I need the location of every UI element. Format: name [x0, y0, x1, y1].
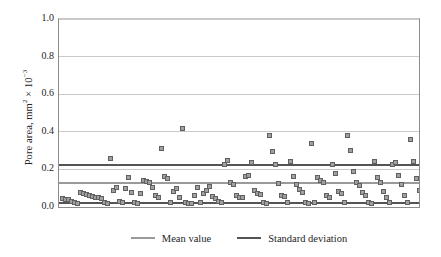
data-point — [240, 195, 245, 200]
data-point — [189, 201, 194, 206]
data-point — [378, 180, 383, 185]
legend-item-mean-value: Mean value — [131, 233, 211, 244]
data-point — [120, 200, 125, 205]
data-point — [270, 149, 275, 154]
data-point — [363, 193, 368, 198]
data-point — [225, 158, 230, 163]
data-point — [222, 162, 227, 167]
data-point — [399, 182, 404, 187]
data-point — [417, 188, 421, 193]
scatter-chart: Pore area, mm2 × 10−3 0.00.20.40.60.81.0… — [0, 0, 441, 257]
data-point — [327, 195, 332, 200]
gridline-y-0.4 — [59, 131, 419, 132]
gridline-y-0.6 — [59, 94, 419, 95]
data-point — [75, 201, 80, 206]
data-point — [333, 171, 338, 176]
chart-legend: Mean value Standard deviation — [58, 228, 420, 248]
data-point — [246, 173, 251, 178]
data-point — [198, 200, 203, 205]
data-point — [369, 201, 374, 206]
data-point — [195, 185, 200, 190]
plot-area — [58, 18, 420, 208]
data-point — [231, 182, 236, 187]
data-point — [348, 148, 353, 153]
y-tick-label-0.2: 0.2 — [22, 163, 54, 173]
data-point — [357, 183, 362, 188]
legend-swatch-mean-line-icon — [131, 237, 155, 239]
data-point — [159, 146, 164, 151]
data-point — [135, 201, 140, 206]
data-point — [138, 191, 143, 196]
data-point — [150, 185, 155, 190]
data-point — [396, 173, 401, 178]
data-point — [156, 195, 161, 200]
data-point — [393, 160, 398, 165]
y-tick-label-0.0: 0.0 — [22, 201, 54, 211]
data-point — [291, 174, 296, 179]
y-tick-label-0.8: 0.8 — [22, 51, 54, 61]
data-point — [264, 201, 269, 206]
legend-swatch-standard-deviation-line-icon — [237, 237, 261, 240]
data-point — [177, 195, 182, 200]
data-point — [387, 200, 392, 205]
gridline-y-0.8 — [59, 56, 419, 57]
data-point — [288, 159, 293, 164]
data-point — [408, 137, 413, 142]
legend-item-standard-deviation: Standard deviation — [237, 233, 347, 244]
data-point — [309, 141, 314, 146]
legend-label-standard-deviation: Standard deviation — [268, 233, 347, 244]
data-point — [306, 201, 311, 206]
data-point — [105, 201, 110, 206]
data-point — [276, 181, 281, 186]
data-point — [165, 176, 170, 181]
data-point — [345, 133, 350, 138]
data-point — [114, 185, 119, 190]
data-point — [207, 184, 212, 189]
data-point — [384, 195, 389, 200]
data-point — [219, 200, 224, 205]
data-point — [108, 156, 113, 161]
data-point — [180, 126, 185, 131]
data-point — [411, 159, 416, 164]
data-point — [321, 180, 326, 185]
data-point — [381, 189, 386, 194]
data-point — [249, 160, 254, 165]
data-point — [273, 162, 278, 167]
data-point — [129, 190, 134, 195]
data-point — [402, 193, 407, 198]
data-point — [342, 200, 347, 205]
data-point — [282, 194, 287, 199]
reference-line-standard-deviation-upper — [59, 164, 419, 166]
data-point — [405, 200, 410, 205]
gridline-y-1.0 — [59, 19, 419, 20]
data-point — [339, 191, 344, 196]
data-point — [330, 162, 335, 167]
data-point — [372, 159, 377, 164]
y-tick-label-1.0: 1.0 — [22, 13, 54, 23]
data-point — [126, 175, 131, 180]
y-axis-tick-labels: 0.00.20.40.60.81.0 — [22, 18, 54, 208]
reference-line-mean-value — [59, 182, 419, 183]
data-point — [312, 200, 317, 205]
y-tick-label-0.4: 0.4 — [22, 126, 54, 136]
data-point — [351, 169, 356, 174]
gridline-y-0.2 — [59, 169, 419, 170]
data-point — [258, 192, 263, 197]
y-tick-label-0.6: 0.6 — [22, 88, 54, 98]
data-point — [192, 193, 197, 198]
data-point — [414, 176, 419, 181]
legend-label-mean-value: Mean value — [162, 233, 211, 244]
data-point — [123, 186, 128, 191]
data-point — [168, 200, 173, 205]
data-point — [285, 200, 290, 205]
data-point — [300, 190, 305, 195]
data-point — [174, 186, 179, 191]
data-point — [267, 133, 272, 138]
